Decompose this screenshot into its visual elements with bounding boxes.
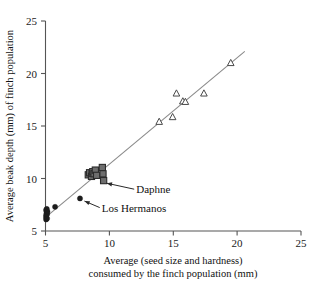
y-tick-label-10: 10: [26, 173, 38, 185]
y-axis-title: Average beak depth (mm) of finch populat…: [4, 29, 16, 222]
data-point: [101, 178, 107, 184]
chart-background: [0, 0, 327, 289]
x-tick-label-20: 20: [232, 237, 244, 249]
data-point: [99, 164, 105, 170]
y-tick-label-5: 5: [32, 225, 38, 237]
annotation-label: Los Hermanos: [102, 202, 166, 214]
chart-figure: 25 20 15 10 5 5 10 15 20 25 Average (see…: [0, 0, 327, 289]
x-tick-label-15: 15: [168, 237, 180, 249]
x-tick-label-5: 5: [43, 237, 49, 249]
x-axis-title-line2: consumed by the finch population (mm): [89, 268, 258, 280]
data-point: [52, 204, 57, 209]
y-tick-label-25: 25: [26, 15, 38, 27]
annotation-label: Daphne: [136, 183, 170, 195]
data-point: [100, 171, 106, 177]
y-tick-label-15: 15: [26, 120, 38, 132]
x-tick-label-10: 10: [104, 237, 116, 249]
scatter-plot: 25 20 15 10 5 5 10 15 20 25 Average (see…: [0, 0, 327, 289]
y-tick-label-20: 20: [26, 68, 38, 80]
data-point: [77, 196, 82, 201]
x-axis-title-line1: Average (seed size and hardness): [103, 255, 243, 267]
data-point: [45, 209, 50, 214]
x-tick-label-25: 25: [296, 237, 308, 249]
data-point: [94, 172, 100, 178]
